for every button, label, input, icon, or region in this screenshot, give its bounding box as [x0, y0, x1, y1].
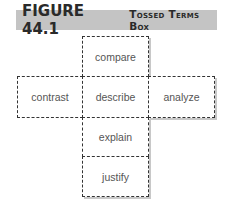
figure-header: FIGURE 44.1 Tossed Terms Box	[16, 10, 217, 30]
figure-number: FIGURE 44.1	[22, 2, 119, 38]
term-label: contrast	[31, 91, 68, 103]
term-label: explain	[99, 131, 132, 143]
term-box-justify: justify	[82, 156, 149, 197]
term-box-describe: describe	[82, 76, 149, 118]
term-label: describe	[96, 91, 136, 103]
term-box-analyze: analyze	[148, 76, 215, 118]
figure-title: Tossed Terms Box	[129, 8, 217, 32]
term-box-compare: compare	[82, 36, 149, 77]
term-box-explain: explain	[82, 117, 149, 157]
term-label: analyze	[163, 91, 199, 103]
term-label: justify	[102, 171, 129, 183]
term-box-contrast: contrast	[17, 76, 83, 118]
term-label: compare	[95, 51, 136, 63]
